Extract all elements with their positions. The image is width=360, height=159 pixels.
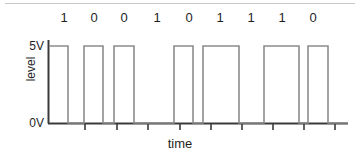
signal-trace — [49, 46, 348, 123]
x-axis-title: time — [120, 136, 240, 152]
waveform-figure: 1 0 0 1 0 1 1 1 0 5V 0V level — [0, 0, 360, 159]
x-axis-ticks — [85, 124, 335, 130]
